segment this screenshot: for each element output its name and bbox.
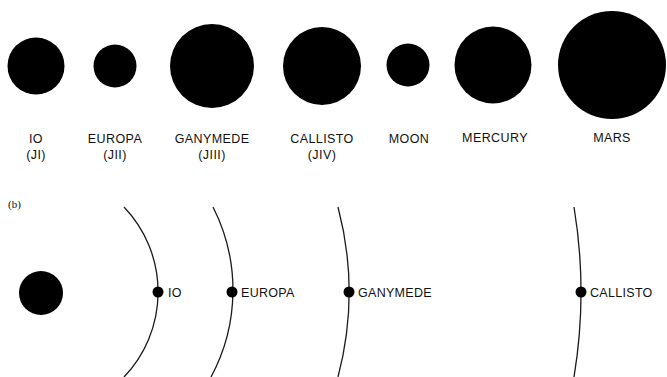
mars-disk [558, 11, 666, 119]
label-io-designation: (JI) [26, 147, 46, 163]
io-disk [8, 38, 65, 95]
label-mercury: MERCURY [462, 130, 528, 146]
label-europa-name: EUROPA [88, 132, 142, 146]
europa-dot [227, 287, 238, 298]
orbit-label-callisto: CALLISTO [590, 286, 653, 300]
jupiter-disk [19, 271, 63, 315]
moon-disk [387, 44, 430, 87]
label-io-name: IO [29, 132, 43, 146]
label-moon: MOON [389, 131, 430, 147]
mercury-disk [455, 27, 532, 104]
label-io: IO (JI) [26, 131, 46, 163]
label-ganymede: GANYMEDE (JIII) [175, 131, 250, 163]
label-mercury-name: MERCURY [462, 131, 528, 145]
orbit-label-ganymede: GANYMEDE [358, 286, 432, 300]
label-moon-name: MOON [389, 132, 430, 146]
label-callisto-name: CALLISTO [290, 132, 353, 146]
ganymede-disk [170, 24, 254, 108]
europa-disk [94, 45, 137, 88]
callisto-dot [576, 287, 587, 298]
panel-b-tag: (b) [8, 198, 21, 210]
panel-b-system [19, 207, 587, 377]
label-mars-name: MARS [593, 131, 631, 145]
ganymede-dot [344, 287, 355, 298]
label-callisto: CALLISTO (JIV) [290, 131, 353, 163]
orbit-label-io: IO [168, 286, 182, 300]
io-dot [153, 287, 164, 298]
label-europa: EUROPA (JII) [88, 131, 142, 163]
label-mars: MARS [593, 130, 631, 146]
label-ganymede-name: GANYMEDE [175, 132, 250, 146]
label-callisto-designation: (JIV) [290, 147, 353, 163]
label-europa-designation: (JII) [88, 147, 142, 163]
orbit-label-europa: EUROPA [241, 286, 295, 300]
panel-a-bodies [8, 11, 667, 119]
callisto-disk [283, 27, 361, 105]
figure-canvas [0, 0, 667, 377]
label-ganymede-designation: (JIII) [175, 147, 250, 163]
